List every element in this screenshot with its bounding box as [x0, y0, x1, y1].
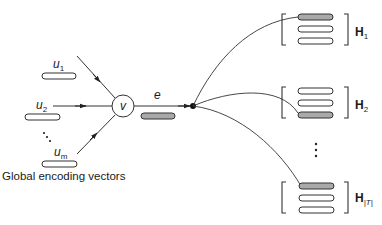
- network-coding-diagram: u1 u2 um Global encoding vectors v e: [0, 0, 382, 225]
- input-vector-um: um: [42, 145, 77, 167]
- caption-global-encoding-vectors: Global encoding vectors: [2, 170, 126, 182]
- edge-e: e: [134, 88, 190, 119]
- um-vector-pill: [42, 161, 77, 167]
- um-label: um: [54, 145, 68, 161]
- output-matrix-H1: H1: [282, 14, 369, 45]
- input-ellipsis: [43, 132, 51, 142]
- u1-vector-pill: [42, 73, 76, 79]
- H2-label: H2: [355, 98, 369, 114]
- edge-e-label: e: [154, 88, 161, 102]
- HT-label: H|T|: [355, 191, 373, 207]
- output-matrix-HT: H|T|: [282, 182, 373, 213]
- u2-label: u2: [36, 98, 48, 114]
- H1-label: H1: [355, 25, 369, 41]
- input-vector-u2: u2: [25, 98, 60, 120]
- output-ellipsis: [315, 143, 317, 157]
- node-v: v: [112, 95, 134, 117]
- u2-vector-pill: [25, 114, 60, 120]
- u1-label: u1: [53, 57, 65, 73]
- svg-text:v: v: [120, 99, 127, 113]
- output-matrix-H2: H2: [282, 87, 369, 118]
- input-vector-u1: u1: [42, 57, 76, 79]
- edge-e-vector-pill: [141, 113, 175, 119]
